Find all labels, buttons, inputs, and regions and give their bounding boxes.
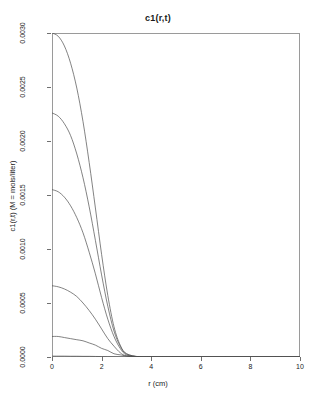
x-tick-label: 6 [199,363,203,370]
chart-title: c1(r,t) [0,13,316,23]
curve-series-group [52,33,300,357]
curve-t4 [52,286,300,357]
x-tick-label: 8 [248,363,252,370]
curve-t2 [52,113,300,357]
y-tick-mark [47,249,51,250]
y-tick: 0.0015 [0,190,44,200]
plot-area [52,33,300,357]
x-tick-label: 10 [296,363,304,370]
curve-t3 [52,190,300,357]
y-tick-label: 0.0010 [19,238,26,259]
x-tick-mark [300,357,301,361]
y-tick: 0.0000 [0,352,44,362]
y-tick-label: 0.0025 [19,76,26,97]
x-tick-label: 4 [149,363,153,370]
x-tick-mark [52,357,53,361]
x-tick-mark [250,357,251,361]
chart-figure: c1(r,t) c1(r,t) (M = mols/liter) 0.00000… [0,0,316,408]
y-tick: 0.0030 [0,28,44,38]
y-tick-label: 0.0000 [19,346,26,367]
x-tick-mark [102,357,103,361]
y-tick: 0.0025 [0,82,44,92]
y-tick-mark [47,141,51,142]
curve-t5 [52,336,300,357]
x-tick-label: 2 [100,363,104,370]
y-tick: 0.0005 [0,298,44,308]
x-tick-mark [201,357,202,361]
y-tick-mark [47,33,51,34]
y-tick-mark [47,357,51,358]
curve-t1 [52,33,300,357]
x-tick-label: 0 [50,363,54,370]
y-tick-mark [47,195,51,196]
curve-t6 [52,356,300,357]
y-tick-mark [47,87,51,88]
y-tick: 0.0020 [0,136,44,146]
y-tick-label: 0.0030 [19,22,26,43]
y-tick-label: 0.0005 [19,292,26,313]
x-tick-mark [151,357,152,361]
y-tick-label: 0.0015 [19,184,26,205]
y-axis-label-container: c1(r,t) (M = mols/liter) [6,0,18,408]
y-tick-mark [47,303,51,304]
y-tick: 0.0010 [0,244,44,254]
y-tick-label: 0.0020 [19,130,26,151]
x-axis-label: r (cm) [0,379,316,388]
